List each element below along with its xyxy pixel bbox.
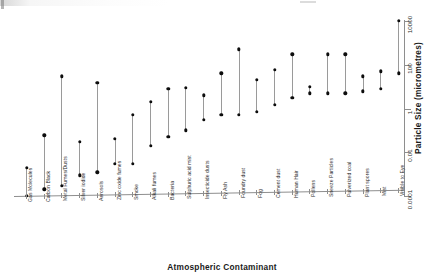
x-axis-category-label: Zinc oxide fumes xyxy=(117,161,122,200)
x-axis-category-label: Carbon Black xyxy=(46,170,51,201)
range-bar xyxy=(132,115,133,164)
range-bar xyxy=(79,142,80,175)
range-min-marker xyxy=(273,103,276,106)
range-max-marker xyxy=(43,134,46,137)
range-bar xyxy=(398,21,399,73)
range-max-marker xyxy=(361,74,364,77)
range-min-marker xyxy=(326,92,329,95)
range-bar xyxy=(256,80,257,112)
range-max-marker xyxy=(202,94,205,97)
range-min-marker xyxy=(308,92,311,95)
range-max-marker xyxy=(113,137,116,140)
range-bar xyxy=(327,54,328,93)
x-axis-category-label: Smoke xyxy=(134,184,139,200)
x-axis-category-label: Alkali fumes xyxy=(152,172,157,200)
range-bar xyxy=(292,54,293,98)
x-axis-category-label: Pulverized coal xyxy=(347,162,352,197)
scan-artifact-streak xyxy=(300,1,316,3)
range-max-marker xyxy=(273,68,276,71)
x-axis-category-label: Sulphuric acid mist xyxy=(187,156,192,200)
x-axis-category-label: Aerosols xyxy=(99,180,104,200)
range-max-marker xyxy=(60,74,63,77)
range-max-marker xyxy=(149,100,152,103)
range-min-marker xyxy=(361,90,364,93)
range-max-marker xyxy=(184,86,187,89)
range-min-marker xyxy=(149,144,152,147)
range-min-marker xyxy=(96,171,99,174)
x-axis-category-label: Fly Ash xyxy=(223,182,228,199)
x-axis-category-label: Plant spores xyxy=(365,168,370,197)
y-axis-tick-label: 0.01 xyxy=(406,150,413,162)
x-axis-category-label: Foundry dust xyxy=(241,168,246,198)
y-axis-title: Particle Size (micrometres) xyxy=(413,42,423,154)
range-bar xyxy=(345,54,346,93)
range-bar xyxy=(115,139,116,164)
range-min-marker xyxy=(291,96,294,99)
x-axis-category-label: Insecticide dusts xyxy=(205,161,210,200)
range-max-marker xyxy=(326,53,329,56)
range-max-marker xyxy=(96,81,99,84)
range-bar xyxy=(150,102,151,146)
range-min-marker xyxy=(167,135,170,138)
range-max-marker xyxy=(237,48,240,51)
scan-artifact-top xyxy=(0,0,444,6)
range-bar xyxy=(239,49,240,115)
range-max-marker xyxy=(397,19,400,22)
range-min-marker xyxy=(379,87,382,90)
range-max-marker xyxy=(255,78,258,81)
range-bar xyxy=(203,95,204,120)
range-bar xyxy=(97,83,98,173)
range-min-marker xyxy=(255,110,258,113)
range-min-marker xyxy=(220,113,223,116)
range-bar xyxy=(185,88,186,131)
x-axis-category-label: Pollens xyxy=(311,180,316,197)
x-axis-category-label: Visible to Eye xyxy=(400,164,405,195)
range-max-marker xyxy=(379,70,382,73)
range-max-marker xyxy=(131,113,134,116)
x-axis-category-label: Human Hair xyxy=(294,170,299,198)
range-max-marker xyxy=(308,85,311,88)
y-axis-tick-label: 10000 xyxy=(406,16,413,34)
y-axis-tick-label: 0.0001 xyxy=(406,190,413,210)
range-min-marker xyxy=(184,129,187,132)
range-min-marker xyxy=(237,113,240,116)
range-bar xyxy=(221,73,222,115)
range-max-marker xyxy=(344,53,347,56)
y-axis-tick-label: 1 xyxy=(406,110,413,114)
range-max-marker xyxy=(220,72,223,75)
range-bar xyxy=(168,89,169,137)
range-min-marker xyxy=(131,162,134,165)
x-axis-category-label: Bacteria xyxy=(170,180,175,199)
range-min-marker xyxy=(344,92,347,95)
x-axis-category-label: Cement dust xyxy=(276,168,281,197)
range-max-marker xyxy=(78,140,81,143)
range-min-marker xyxy=(397,72,400,75)
particle-size-chart-figure: 0.00010.01110010000 Gas MoleculesCarbon … xyxy=(0,0,444,279)
x-axis-category-label: Silver iodide xyxy=(81,173,86,201)
x-axis-category-label: Fog xyxy=(258,189,263,198)
y-axis-tick-label: 100 xyxy=(406,63,413,74)
scan-artifact-mark xyxy=(1,0,4,9)
range-min-marker xyxy=(202,118,205,121)
range-bar xyxy=(274,70,275,105)
x-axis-title: Atmospheric Contaminant xyxy=(0,262,444,272)
x-axis-category-label: Mist xyxy=(382,187,387,197)
range-max-marker xyxy=(167,87,170,90)
x-axis-category-label: Gas Molecules xyxy=(28,167,33,201)
range-max-marker xyxy=(291,53,294,56)
x-axis-category-label: Sneeze Particles xyxy=(329,158,334,197)
x-axis-category-label: Metal Fumes/Dusts xyxy=(63,157,68,202)
